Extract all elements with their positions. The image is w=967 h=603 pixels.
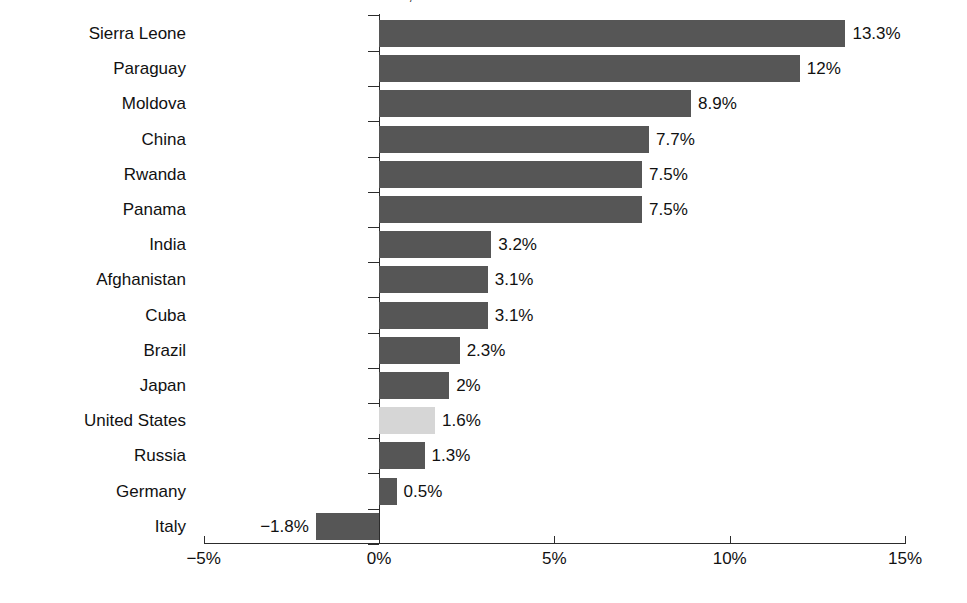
- category-label-afghanistan: Afghanistan: [0, 266, 186, 293]
- y-axis-tick: [368, 157, 379, 158]
- y-axis-tick: [368, 544, 379, 545]
- category-label-moldova: Moldova: [0, 90, 186, 117]
- bar-row: Brazil2.3%: [0, 337, 967, 372]
- value-label-afghanistan: 3.1%: [495, 266, 534, 293]
- bar-row: Moldova8.9%: [0, 90, 967, 125]
- bar-row: Italy−1.8%: [0, 513, 967, 548]
- value-label-japan: 2%: [456, 372, 481, 399]
- bar-panama[interactable]: [379, 196, 642, 223]
- bar-rwanda[interactable]: [379, 161, 642, 188]
- value-label-russia: 1.3%: [432, 442, 471, 469]
- bar-row: Russia1.3%: [0, 442, 967, 477]
- category-label-brazil: Brazil: [0, 337, 186, 364]
- bar-row: Germany0.5%: [0, 478, 967, 513]
- bar-afghanistan[interactable]: [379, 266, 488, 293]
- category-label-cuba: Cuba: [0, 302, 186, 329]
- y-axis-tick: [368, 473, 379, 474]
- y-axis-tick: [368, 297, 379, 298]
- value-label-italy: −1.8%: [260, 513, 309, 540]
- value-label-germany: 0.5%: [404, 478, 443, 505]
- bar-germany[interactable]: [379, 478, 397, 505]
- y-axis-tick: [368, 509, 379, 510]
- bar-row: Panama7.5%: [0, 196, 967, 231]
- value-label-panama: 7.5%: [649, 196, 688, 223]
- bar-row: Rwanda7.5%: [0, 161, 967, 196]
- bar-row: India3.2%: [0, 231, 967, 266]
- category-label-japan: Japan: [0, 372, 186, 399]
- bar-china[interactable]: [379, 126, 649, 153]
- bar-row: Cuba3.1%: [0, 302, 967, 337]
- category-label-india: India: [0, 231, 186, 258]
- bar-chart: Inflation rate: selected countries, 2023…: [0, 0, 967, 603]
- y-axis-tick: [368, 51, 379, 52]
- plot-area: Sierra Leone13.3%Paraguay12%Moldova8.9%C…: [0, 0, 967, 603]
- x-axis-tick: [204, 536, 205, 544]
- y-axis-tick: [368, 368, 379, 369]
- bar-brazil[interactable]: [379, 337, 460, 364]
- category-label-rwanda: Rwanda: [0, 161, 186, 188]
- bar-india[interactable]: [379, 231, 491, 258]
- bar-cuba[interactable]: [379, 302, 488, 329]
- value-label-sierra-leone: 13.3%: [852, 20, 900, 47]
- y-axis-tick: [368, 403, 379, 404]
- bar-united-states[interactable]: [379, 407, 435, 434]
- bar-russia[interactable]: [379, 442, 425, 469]
- bar-row: Afghanistan3.1%: [0, 266, 967, 301]
- x-axis-tick-label: 5%: [542, 549, 567, 569]
- y-axis-tick: [368, 333, 379, 334]
- value-label-united-states: 1.6%: [442, 407, 481, 434]
- x-axis-tick-label: 0%: [367, 549, 392, 569]
- category-label-united-states: United States: [0, 407, 186, 434]
- bar-row: Paraguay12%: [0, 55, 967, 90]
- category-label-russia: Russia: [0, 442, 186, 469]
- category-label-italy: Italy: [0, 513, 186, 540]
- x-axis-tick: [554, 536, 555, 544]
- value-label-brazil: 2.3%: [467, 337, 506, 364]
- y-axis-tick: [368, 227, 379, 228]
- bar-japan[interactable]: [379, 372, 449, 399]
- x-axis-tick-label: −5%: [186, 549, 221, 569]
- y-axis-tick: [368, 121, 379, 122]
- value-label-china: 7.7%: [656, 126, 695, 153]
- bar-row: Sierra Leone13.3%: [0, 20, 967, 55]
- category-label-paraguay: Paraguay: [0, 55, 186, 82]
- bar-row: United States1.6%: [0, 407, 967, 442]
- category-label-sierra-leone: Sierra Leone: [0, 20, 186, 47]
- x-axis-tick: [730, 536, 731, 544]
- category-label-china: China: [0, 126, 186, 153]
- bar-sierra-leone[interactable]: [379, 20, 845, 47]
- y-axis-tick: [368, 192, 379, 193]
- y-axis-tick: [368, 262, 379, 263]
- bar-italy[interactable]: [316, 513, 379, 540]
- y-axis-tick: [368, 15, 379, 16]
- value-label-rwanda: 7.5%: [649, 161, 688, 188]
- x-axis-tick-label: 15%: [888, 549, 922, 569]
- bar-paraguay[interactable]: [379, 55, 800, 82]
- x-axis-tick-label: 10%: [713, 549, 747, 569]
- y-axis-tick: [368, 438, 379, 439]
- bar-row: Japan2%: [0, 372, 967, 407]
- x-axis-tick: [379, 536, 380, 544]
- value-label-paraguay: 12%: [807, 55, 841, 82]
- category-label-panama: Panama: [0, 196, 186, 223]
- y-axis-tick: [368, 86, 379, 87]
- category-label-germany: Germany: [0, 478, 186, 505]
- value-label-moldova: 8.9%: [698, 90, 737, 117]
- x-axis-tick: [905, 536, 906, 544]
- bar-row: China7.7%: [0, 126, 967, 161]
- value-label-india: 3.2%: [498, 231, 537, 258]
- bar-moldova[interactable]: [379, 90, 691, 117]
- value-label-cuba: 3.1%: [495, 302, 534, 329]
